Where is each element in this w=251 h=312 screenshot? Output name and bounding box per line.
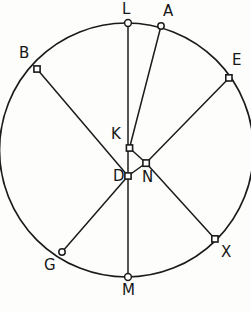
segment-A-K: [130, 26, 162, 148]
vertex-marker-M: [125, 274, 132, 281]
geometry-figure: L A E X M G B K N D: [0, 0, 251, 312]
vertex-marker-B: [34, 66, 40, 72]
point-label-M: M: [122, 283, 135, 298]
vertex-marker-G: [59, 249, 65, 255]
point-label-D: D: [113, 169, 125, 184]
point-label-K: K: [111, 127, 121, 142]
point-label-L: L: [122, 2, 131, 17]
segment-B-D: [37, 69, 128, 176]
segment-E-N: [146, 78, 229, 163]
vertex-marker-X: [212, 236, 218, 242]
vertex-marker-K: [126, 145, 132, 151]
figure-canvas: [0, 0, 251, 312]
segment-G-D: [62, 176, 128, 252]
vertex-marker-N: [143, 160, 149, 166]
point-label-A: A: [163, 4, 174, 19]
vertex-marker-L: [125, 20, 132, 27]
point-label-B: B: [19, 46, 30, 61]
vertex-marker-E: [226, 75, 232, 81]
vertex-marker-A: [158, 23, 164, 29]
vertex-marker-D: [125, 173, 131, 179]
point-label-X: X: [221, 245, 232, 260]
segment-N-X: [146, 163, 215, 239]
point-label-E: E: [232, 53, 242, 68]
point-label-N: N: [142, 170, 154, 185]
point-label-G: G: [44, 258, 56, 273]
